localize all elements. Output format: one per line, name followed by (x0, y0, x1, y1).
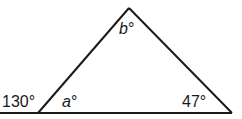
right-angle-label: 47° (182, 93, 206, 110)
exterior-angle-label: 130° (2, 93, 35, 110)
left-side (38, 8, 129, 113)
left-angle-label: a° (62, 93, 77, 110)
apex-angle-label: b° (119, 20, 134, 37)
triangle-diagram: b° 130° a° 47° (0, 0, 242, 119)
right-side (129, 8, 232, 113)
